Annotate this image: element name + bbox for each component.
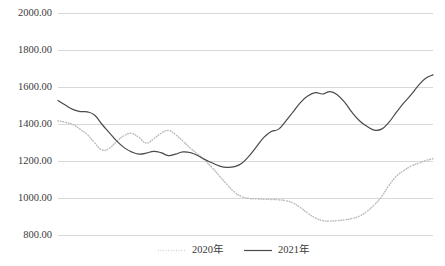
ytick-label-1000: 1000.00 xyxy=(18,192,52,203)
chart-page: 2000.00 1800.00 1600.00 1400.00 1200.00 … xyxy=(0,0,445,266)
series-line-2020 xyxy=(58,121,433,221)
legend-label-2021: 2021年 xyxy=(278,243,309,255)
ytick-label-1800: 1800.00 xyxy=(18,44,52,55)
legend-label-2020: 2020年 xyxy=(192,243,223,255)
ytick-label-2000: 2000.00 xyxy=(18,7,52,18)
ytick-label-1200: 1200.00 xyxy=(18,155,52,166)
series-paths xyxy=(58,75,433,221)
chart-legend: 2020年 2021年 xyxy=(158,243,309,255)
series-line-2021 xyxy=(58,75,433,168)
ytick-label-800: 800.00 xyxy=(23,229,52,240)
y-axis-labels: 2000.00 1800.00 1600.00 1400.00 1200.00 … xyxy=(18,7,52,240)
ytick-label-1600: 1600.00 xyxy=(18,81,52,92)
ytick-label-1400: 1400.00 xyxy=(18,118,52,129)
line-chart: 2000.00 1800.00 1600.00 1400.00 1200.00 … xyxy=(0,0,445,266)
